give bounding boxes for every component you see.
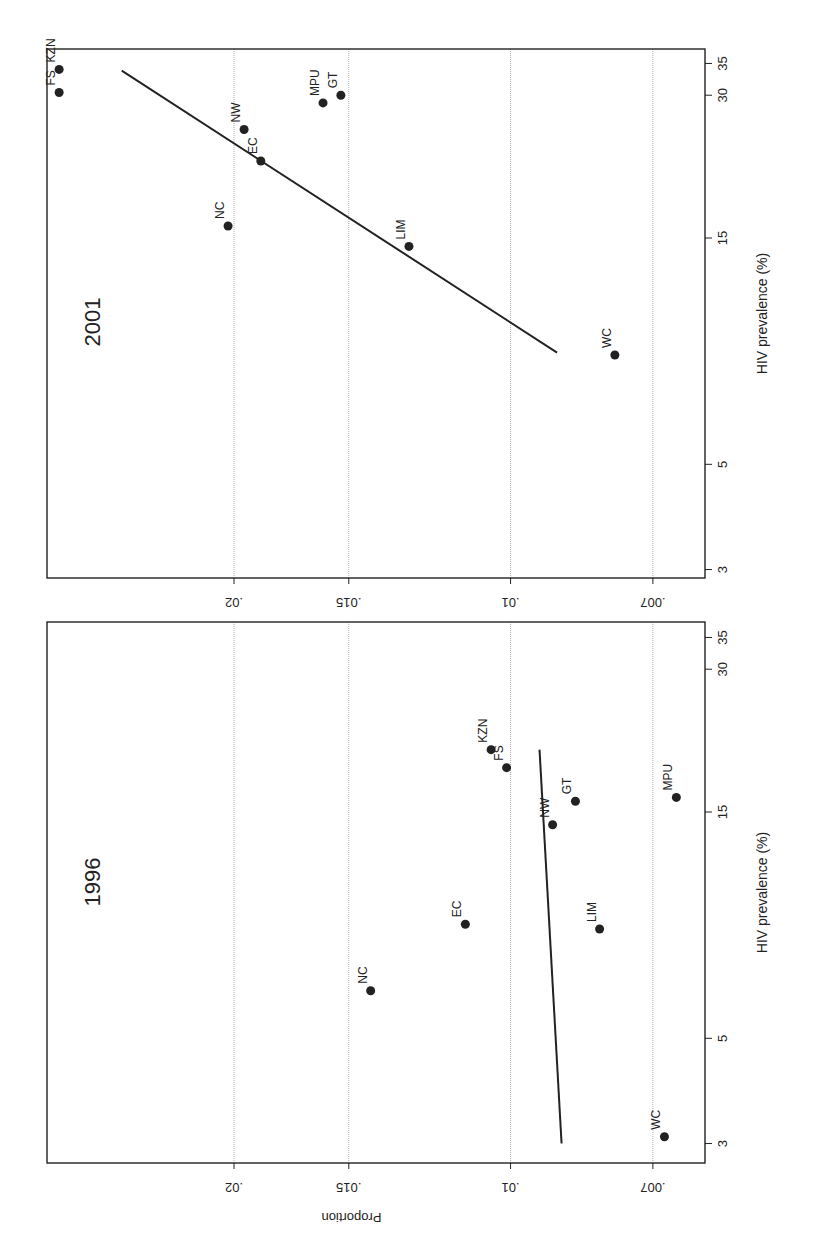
x-tick-label: 15 xyxy=(715,805,730,819)
y-tick-label: .02 xyxy=(225,595,243,610)
data-point-marker xyxy=(319,98,328,107)
data-point-label: LIM xyxy=(394,219,408,239)
data-point-marker xyxy=(336,91,345,100)
fit-line xyxy=(122,71,557,353)
data-point-marker xyxy=(660,1132,669,1141)
data-point-label: EC xyxy=(246,137,260,154)
x-tick-label: 5 xyxy=(715,461,730,468)
data-point-marker xyxy=(571,797,580,806)
data-point-label: FS xyxy=(492,745,506,760)
data-point-label: NC xyxy=(356,966,370,984)
data-point-label: KZN xyxy=(476,719,490,743)
x-tick-label: 30 xyxy=(715,88,730,102)
panel-title: 2001 xyxy=(80,298,105,347)
y-tick-label: .01 xyxy=(502,595,520,610)
data-point-marker xyxy=(610,351,619,360)
panel-title: 1996 xyxy=(80,858,105,907)
data-point-label: WC xyxy=(600,328,614,348)
data-point-marker xyxy=(366,986,375,995)
x-tick-label: 5 xyxy=(715,1035,730,1042)
data-point-marker xyxy=(548,820,557,829)
data-point-marker xyxy=(404,242,413,251)
data-point-marker xyxy=(461,920,470,929)
data-point-label: MPU xyxy=(308,69,322,96)
x-axis-title: HIV prevalence (%) xyxy=(754,832,770,953)
rotated-scatter-figure: .007.01.015.0235153035HIV prevalence (%)… xyxy=(0,0,815,1250)
y-axis-title: Proportion xyxy=(321,1210,381,1225)
data-point-marker xyxy=(240,125,249,134)
data-point-marker xyxy=(595,925,604,934)
x-tick-label: 35 xyxy=(715,56,730,70)
data-point-label: MPU xyxy=(661,764,675,791)
plot-frame xyxy=(47,622,705,1163)
panel-1996: .007.01.015.0235153035HIV prevalence (%)… xyxy=(47,622,770,1225)
y-tick-label: .01 xyxy=(502,1180,520,1195)
figure: .007.01.015.0235153035HIV prevalence (%)… xyxy=(0,0,815,1250)
y-tick-label: .015 xyxy=(336,1180,361,1195)
data-point-label: NW xyxy=(229,102,243,123)
data-point-label: GT xyxy=(560,777,574,794)
data-point-label: KZN xyxy=(44,38,58,62)
x-tick-label: 30 xyxy=(715,662,730,676)
data-point-marker xyxy=(55,88,64,97)
panel-2001: .007.01.015.0235153035HIV prevalence (%)… xyxy=(44,38,770,610)
data-point-marker xyxy=(502,763,511,772)
data-point-marker xyxy=(256,156,265,165)
data-point-label: WC xyxy=(649,1109,663,1129)
data-point-label: NC xyxy=(213,201,227,219)
x-tick-label: 3 xyxy=(715,1140,730,1147)
x-axis-title: HIV prevalence (%) xyxy=(754,253,770,374)
data-point-label: FS xyxy=(44,70,58,85)
x-tick-label: 3 xyxy=(715,566,730,573)
y-tick-label: .015 xyxy=(336,595,361,610)
x-tick-label: 35 xyxy=(715,630,730,644)
data-point-marker xyxy=(224,221,233,230)
x-tick-label: 15 xyxy=(715,231,730,245)
data-point-label: LIM xyxy=(585,902,599,922)
data-point-marker xyxy=(672,793,681,802)
plot-frame xyxy=(47,49,705,578)
y-tick-label: .02 xyxy=(225,1180,243,1195)
y-tick-label: .007 xyxy=(640,595,665,610)
data-point-label: GT xyxy=(326,71,340,88)
data-point-label: NW xyxy=(538,797,552,818)
data-point-label: EC xyxy=(450,900,464,917)
y-tick-label: .007 xyxy=(640,1180,665,1195)
